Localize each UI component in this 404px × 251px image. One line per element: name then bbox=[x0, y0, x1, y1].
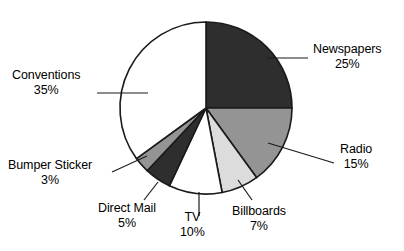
slice-label-tv: TV 10% bbox=[180, 210, 205, 239]
slice-label-radio: Radio 15% bbox=[340, 142, 372, 171]
slice-label-tv-value: 10% bbox=[180, 225, 205, 240]
pie-slice-newspapers[interactable] bbox=[206, 22, 292, 108]
slice-label-conventions: Conventions 35% bbox=[12, 68, 80, 97]
slice-label-direct-mail-name: Direct Mail bbox=[98, 201, 156, 216]
slice-label-direct-mail: Direct Mail 5% bbox=[98, 201, 156, 230]
slice-label-bumper-sticker: Bumper Sticker 3% bbox=[8, 158, 92, 187]
pie-slices bbox=[120, 22, 292, 194]
slice-label-direct-mail-value: 5% bbox=[98, 216, 156, 231]
slice-label-conventions-value: 35% bbox=[12, 83, 80, 98]
pie-chart-figure: Newspapers 25% Radio 15% Billboards 7% T… bbox=[0, 0, 404, 251]
leader-line-direct-mail bbox=[144, 182, 158, 200]
slice-label-conventions-name: Conventions bbox=[12, 68, 80, 83]
slice-label-newspapers-name: Newspapers bbox=[313, 42, 381, 57]
slice-label-bumper-sticker-name: Bumper Sticker bbox=[8, 158, 92, 173]
slice-label-radio-name: Radio bbox=[340, 142, 372, 157]
slice-label-newspapers: Newspapers 25% bbox=[313, 42, 381, 71]
slice-label-billboards-name: Billboards bbox=[232, 204, 286, 219]
slice-label-billboards-value: 7% bbox=[232, 219, 286, 234]
slice-label-radio-value: 15% bbox=[340, 157, 372, 172]
slice-label-billboards: Billboards 7% bbox=[232, 204, 286, 233]
slice-label-bumper-sticker-value: 3% bbox=[8, 173, 92, 188]
slice-label-newspapers-value: 25% bbox=[313, 57, 381, 72]
slice-label-tv-name: TV bbox=[180, 210, 205, 225]
